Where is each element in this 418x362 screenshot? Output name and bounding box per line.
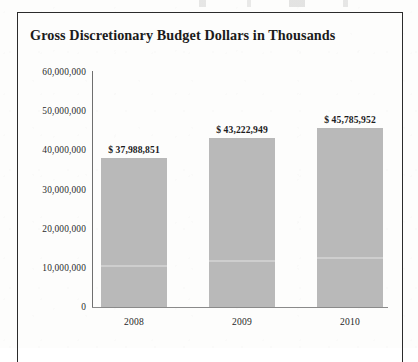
page-bleed-text-row — [185, 0, 410, 7]
figure-border — [17, 12, 403, 362]
chart-title: Gross Discretionary Budget Dollars in Th… — [30, 27, 370, 44]
